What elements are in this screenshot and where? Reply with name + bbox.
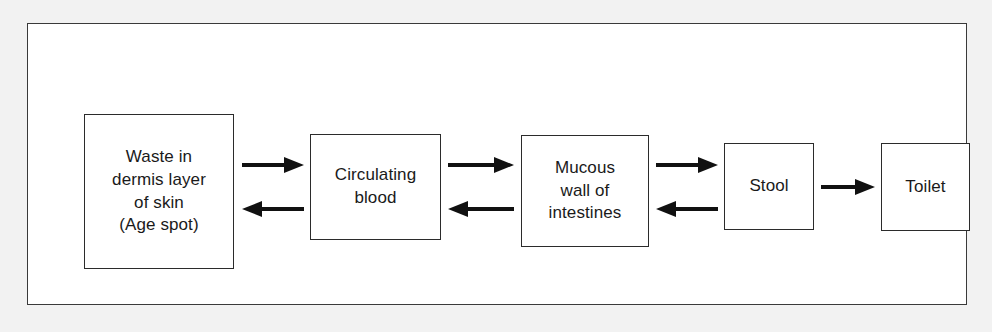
arrow-right-icon-stool-to-toilet bbox=[821, 176, 875, 198]
node-stool: Stool bbox=[724, 143, 814, 230]
diagram-root: Waste in dermis layer of skin (Age spot)… bbox=[0, 0, 992, 332]
node-waste-in-dermis-layer-of-skin: Waste in dermis layer of skin (Age spot) bbox=[84, 114, 234, 269]
node-toilet: Toilet bbox=[881, 143, 970, 231]
arrow-left-icon-mucous-to-blood bbox=[448, 198, 514, 220]
arrow-left-icon-blood-to-waste bbox=[242, 198, 304, 220]
node-circulating-blood: Circulating blood bbox=[310, 134, 441, 240]
arrow-right-icon-blood-to-mucous bbox=[448, 154, 514, 176]
arrow-right-icon-waste-to-blood bbox=[242, 154, 304, 176]
diagram-frame: Waste in dermis layer of skin (Age spot)… bbox=[27, 23, 967, 305]
node-mucous-wall-of-intestines: Mucous wall of intestines bbox=[521, 135, 649, 247]
arrow-right-icon-mucous-to-stool bbox=[656, 154, 718, 176]
arrow-left-icon-stool-to-mucous bbox=[656, 198, 718, 220]
